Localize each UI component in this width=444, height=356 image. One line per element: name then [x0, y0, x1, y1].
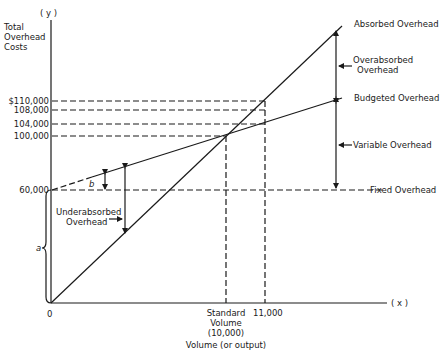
x-axis-symbol: ( x ): [391, 298, 408, 308]
b-label: b: [89, 179, 94, 189]
x-tick-standard-2: Volume: [206, 318, 246, 328]
x-axis-title: Volume (or output): [176, 340, 276, 350]
diagram-canvas: [0, 0, 444, 356]
y-tick-104000: 104,000: [14, 119, 49, 129]
reference-dashes: [52, 101, 382, 303]
a-brace: [42, 190, 51, 303]
origin-label: 0: [47, 309, 52, 319]
a-label: a: [36, 243, 41, 253]
overabsorbed-label-1: Overabsorbed: [353, 55, 413, 65]
underabsorbed-label-2: Overhead: [66, 217, 108, 227]
variable-overhead-label: Variable Overhead: [353, 140, 432, 150]
x-tick-11000: 11,000: [253, 308, 283, 318]
overabsorbed-label-2: Overhead: [357, 65, 399, 75]
y-axis-title-1: Total: [4, 22, 24, 32]
x-tick-standard-3: (10,000): [206, 328, 246, 338]
absorbed-overhead-label: Absorbed Overhead: [354, 19, 439, 29]
y-axis-title-3: Costs: [4, 42, 27, 52]
y-tick-108000: 108,000: [14, 105, 49, 115]
underabsorbed-label-1: Underabsorbed: [56, 207, 121, 217]
x-tick-standard-1: Standard: [206, 308, 246, 318]
fixed-overhead-label: Fixed Overhead: [370, 185, 436, 195]
y-axis-symbol: ( y ): [40, 8, 57, 18]
y-tick-100000: 100,000: [14, 131, 49, 141]
budgeted-overhead-label: Budgeted Overhead: [354, 93, 439, 103]
overhead-cost-diagram: ( y ) Total Overhead Costs $110,000 108,…: [0, 0, 444, 356]
absorbed-overhead-line: [51, 26, 342, 303]
y-tick-60000: 60,000: [19, 185, 49, 195]
y-axis-title-2: Overhead: [4, 32, 46, 42]
